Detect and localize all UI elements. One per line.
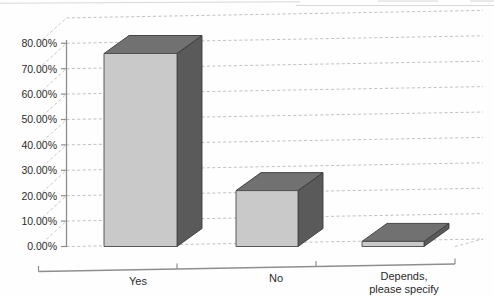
chart-container: 80.00% 70.00% 60.00% 50.00% 40.00% 30.00… xyxy=(0,0,494,297)
x-axis-labels: Yes No Depends, please specify xyxy=(129,270,439,295)
y-tick-label-20: 20.00% xyxy=(21,190,57,202)
backwall-top-edge xyxy=(67,10,484,18)
y-tick-label-70: 70.00% xyxy=(21,63,57,75)
bar-no[interactable] xyxy=(236,173,323,247)
floor-right-diagonal xyxy=(455,239,483,247)
bar-chart-plot: 80.00% 70.00% 60.00% 50.00% 40.00% 30.00… xyxy=(0,0,494,297)
y-tick-label-30: 30.00% xyxy=(21,164,57,176)
bar-yes-front xyxy=(104,54,177,247)
y-tick-marks xyxy=(61,43,67,246)
y-axis-labels: 80.00% 70.00% 60.00% 50.00% 40.00% 30.00… xyxy=(21,37,57,252)
bar-depends-front xyxy=(362,241,424,246)
y-tick-label-10: 10.00% xyxy=(21,215,57,227)
x-tick-label-no: No xyxy=(269,272,283,284)
bar-yes-side xyxy=(177,36,202,247)
x-tick-label-yes: Yes xyxy=(129,275,147,287)
bar-depends-top xyxy=(362,223,449,241)
y-tick-label-50: 50.00% xyxy=(21,113,57,125)
y-tick-label-40: 40.00% xyxy=(21,139,57,151)
bar-yes[interactable] xyxy=(104,36,202,247)
x-tick-label-depends-line1: Depends, xyxy=(380,270,427,282)
y-tick-label-0: 0.00% xyxy=(27,240,57,252)
y-tick-label-60: 60.00% xyxy=(21,88,57,100)
bar-depends[interactable] xyxy=(362,223,449,246)
y-tick-label-80: 80.00% xyxy=(21,37,57,49)
bar-no-front xyxy=(236,191,298,247)
x-tick-label-depends-line2: please specify xyxy=(369,283,439,295)
